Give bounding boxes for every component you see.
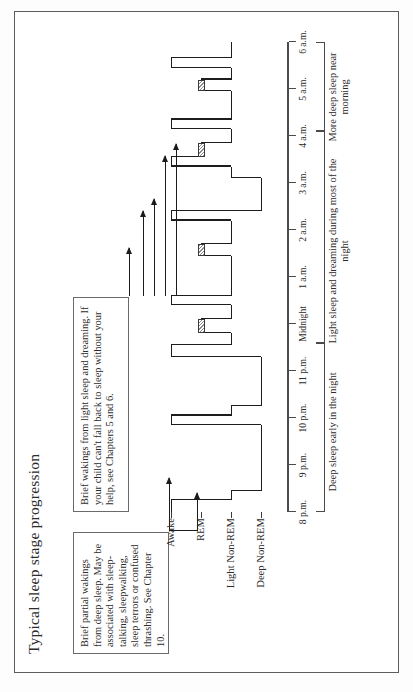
time-tick — [289, 370, 296, 371]
light-callout-arrow-4 — [165, 156, 166, 296]
time-tick — [289, 464, 296, 465]
time-tick — [289, 323, 296, 324]
stage-label-awake: Awake — [165, 518, 176, 560]
trace-transition — [201, 243, 231, 244]
trace-transition — [171, 156, 201, 157]
time-tick-label: 5 a.m. — [297, 77, 308, 101]
stage-tick-deep-non-rem — [261, 512, 262, 518]
scanned-page: Typical sleep stage progression Brief pa… — [0, 0, 413, 692]
time-tick — [289, 229, 296, 230]
light-callout-arrow-1 — [129, 248, 130, 296]
stage-tick-awake — [171, 512, 172, 518]
rem-period-block — [198, 319, 205, 333]
time-tick — [289, 135, 296, 136]
trace-transition — [201, 90, 231, 91]
trace-transition — [201, 78, 231, 79]
trace-transition — [171, 499, 231, 500]
trace-segment — [231, 221, 232, 245]
trace-segment — [261, 357, 262, 406]
time-tick — [289, 182, 296, 183]
stage-tick-light-non-rem — [231, 512, 232, 518]
stage-label-deep-non-rem: Deep Non-REM — [255, 518, 266, 606]
page-border: Typical sleep stage progression Brief pa… — [14, 11, 399, 673]
trace-transition — [171, 424, 261, 425]
time-tick-label: 8 p.m. — [297, 500, 308, 524]
trace-transition — [201, 318, 231, 319]
trace-segment — [231, 91, 232, 119]
time-tick-label: 11 p.m. — [297, 357, 308, 386]
figure-title: Typical sleep stage progression — [25, 454, 43, 654]
trace-transition — [171, 295, 231, 296]
trace-segment — [231, 42, 232, 58]
trace-transition — [171, 356, 261, 357]
time-tick-label: Midnight — [297, 306, 308, 342]
rem-period-block — [198, 244, 205, 256]
trace-transition — [231, 177, 261, 178]
time-tick-label: 6 a.m. — [297, 30, 308, 54]
trace-transition — [171, 165, 231, 166]
trace-segment — [261, 425, 262, 491]
period-brace — [316, 343, 325, 512]
trace-transition — [231, 405, 261, 406]
period-brace — [316, 42, 325, 131]
time-tick-label: 1 a.m. — [297, 265, 308, 289]
time-tick-label: 10 p.m. — [297, 403, 308, 432]
trace-transition — [201, 142, 231, 143]
note-deep-sleep-early: Deep sleep early in the night — [327, 352, 339, 512]
period-brace — [316, 131, 325, 343]
trace-segment — [171, 500, 172, 512]
time-tick-label: 2 a.m. — [297, 218, 308, 242]
trace-transition — [171, 57, 231, 58]
trace-transition — [171, 304, 231, 305]
time-tick — [289, 41, 296, 42]
trace-transition — [171, 219, 231, 220]
trace-transition — [171, 414, 231, 415]
stage-label-light-non-rem: Light Non-REM — [225, 518, 236, 606]
stage-label-rem: REM — [195, 518, 206, 560]
hypnogram-plot: Awake REM Light Non-REM Deep Non-REM — [171, 42, 275, 512]
rem-period-block — [198, 143, 205, 157]
time-axis — [287, 42, 289, 512]
note-more-deep-near-morning: More deep sleep near morning — [327, 44, 352, 150]
trace-transition — [171, 118, 231, 119]
trace-transition — [231, 490, 261, 491]
trace-transition — [171, 67, 231, 68]
time-tick-label: 9 p.m. — [297, 453, 308, 477]
trace-segment — [261, 178, 262, 211]
trace-transition — [171, 344, 231, 345]
stage-tick-rem — [201, 512, 202, 518]
note-light-sleep-most: Light sleep and dreaming during most of … — [327, 156, 352, 346]
trace-segment — [231, 256, 232, 296]
time-tick — [289, 88, 296, 89]
time-tick-label: 4 a.m. — [297, 124, 308, 148]
time-tick — [289, 276, 296, 277]
light-sleep-callout: Brief wakings from light sleep and dream… — [73, 297, 129, 512]
light-callout-arrow-3 — [154, 199, 155, 296]
rem-period-block — [198, 80, 205, 92]
trace-transition — [201, 255, 231, 256]
time-tick-label: 3 a.m. — [297, 171, 308, 195]
time-tick — [289, 511, 296, 512]
light-callout-arrow-2 — [143, 211, 144, 296]
trace-transition — [201, 332, 231, 333]
time-tick — [289, 417, 296, 418]
figure-canvas: Typical sleep stage progression Brief pa… — [21, 22, 393, 662]
trace-transition — [171, 128, 231, 129]
trace-transition — [171, 210, 261, 211]
deep-sleep-callout: Brief partial wakings from deep sleep. M… — [73, 532, 169, 654]
